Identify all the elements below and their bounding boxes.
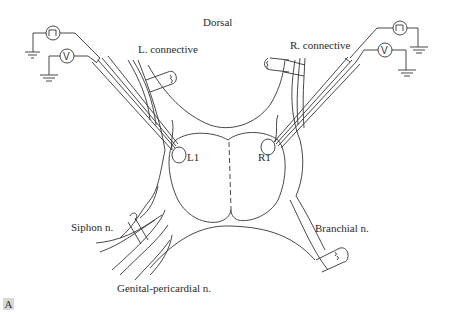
right-microelectrode [274, 57, 360, 148]
label-branchial-nerve: Branchial n. [315, 223, 369, 234]
left-microelectrode [92, 56, 178, 150]
right-voltmeter[interactable]: V [356, 43, 416, 76]
label-genital-pericardial-nerve: Genital-pericardial n. [117, 283, 211, 294]
label-l1: L1 [187, 152, 199, 163]
genital-pericardial-nerve [112, 210, 172, 280]
cell-l1[interactable] [172, 147, 186, 163]
svg-text:V: V [63, 51, 70, 62]
square-pulse-icon [46, 26, 60, 40]
abdominal-ganglion-diagram: V V [0, 0, 452, 313]
label-siphon-nerve: Siphon n. [71, 222, 113, 233]
svg-text:V: V [381, 45, 388, 56]
left-connective [128, 60, 176, 125]
label-r1: R1 [258, 152, 271, 163]
hemiganglia [169, 133, 285, 223]
right-connective [265, 58, 305, 128]
right-stimulator[interactable] [350, 21, 428, 58]
label-left-connective: L. connective [138, 44, 198, 55]
left-voltmeter[interactable]: V [40, 49, 96, 81]
label-right-connective: R. connective [290, 40, 350, 51]
label-dorsal: Dorsal [203, 17, 232, 28]
panel-label: A [3, 298, 14, 310]
